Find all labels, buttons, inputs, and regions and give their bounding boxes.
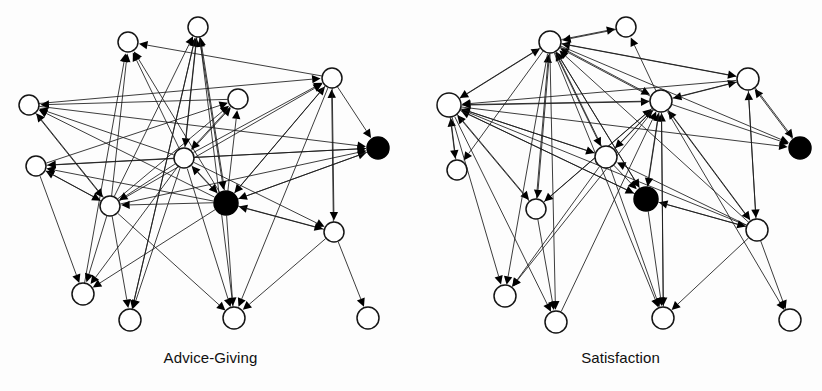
caption-row: Advice-Giving Satisfaction <box>0 343 822 391</box>
graph-node-open[interactable] <box>539 31 561 53</box>
graph-edge <box>35 113 97 191</box>
graph-edge <box>137 60 180 149</box>
graph-edge <box>187 169 228 299</box>
graph-edge <box>571 30 617 39</box>
graph-edge-arrowhead <box>562 34 571 42</box>
graph-edge-arrowhead <box>531 48 540 56</box>
graph-node-open[interactable] <box>616 17 636 37</box>
graph-node-open[interactable] <box>26 156 46 176</box>
graph-node-open[interactable] <box>737 68 759 90</box>
graph-node-open[interactable] <box>545 311 567 333</box>
graph-node-open[interactable] <box>188 17 208 37</box>
graph-edge <box>452 117 499 276</box>
graph-edge <box>678 238 749 304</box>
graph-edge-arrowhead <box>123 299 131 308</box>
graph-edge <box>560 47 643 91</box>
graph-edge-arrowhead <box>450 150 458 159</box>
graph-node-open[interactable] <box>19 95 39 115</box>
graph-edge <box>112 216 127 299</box>
graph-node-filled[interactable] <box>789 137 811 159</box>
graph-edge <box>649 113 659 178</box>
graph-edge <box>199 37 222 181</box>
graph-node-open[interactable] <box>494 285 516 307</box>
graph-node-open[interactable] <box>100 196 120 216</box>
graph-node-open[interactable] <box>595 146 617 168</box>
graph-edge-arrowhead <box>139 41 148 49</box>
graph-node-open[interactable] <box>322 68 342 88</box>
graph-edge-arrowhead <box>534 189 542 198</box>
graph-edge <box>47 112 174 155</box>
graph-edge-arrowhead <box>641 98 650 106</box>
graph-node-open[interactable] <box>357 307 379 329</box>
node-layer <box>437 17 811 333</box>
figure-container: Advice-Giving Satisfaction <box>0 0 822 391</box>
graph-edge-arrowhead <box>218 181 226 190</box>
graph-node-open[interactable] <box>652 307 674 329</box>
graph-node-open[interactable] <box>72 283 94 305</box>
graph-edge <box>134 38 195 301</box>
graph-node-filled[interactable] <box>214 191 238 215</box>
graph-edge <box>562 44 729 75</box>
network-graph-satisfaction <box>411 0 822 345</box>
graph-node-open[interactable] <box>447 160 467 180</box>
graph-edge <box>227 216 233 298</box>
graph-edge <box>748 90 755 209</box>
graph-node-open[interactable] <box>437 93 461 117</box>
graph-edge <box>517 167 599 280</box>
network-graph-advice-giving <box>0 0 411 345</box>
graph-node-open[interactable] <box>324 222 344 242</box>
graph-node-open[interactable] <box>174 148 194 168</box>
graph-edge <box>461 107 779 146</box>
graph-node-open[interactable] <box>650 90 672 112</box>
graph-node-filled[interactable] <box>367 137 389 159</box>
network-panel-advice-giving <box>0 0 411 345</box>
graph-node-open[interactable] <box>119 309 141 331</box>
graph-edge-arrowhead <box>121 201 130 209</box>
graph-edge-arrowhead <box>512 277 520 286</box>
graph-edge <box>667 111 780 302</box>
graph-edge-arrowhead <box>727 71 736 79</box>
graph-edge-arrowhead <box>742 211 750 220</box>
graph-edge <box>648 211 660 297</box>
graph-node-filled[interactable] <box>634 187 658 211</box>
graph-edge <box>194 162 317 223</box>
graph-edge-arrowhead <box>460 90 469 98</box>
graph-edge <box>147 45 321 76</box>
graph-edge <box>634 45 656 91</box>
caption-satisfaction: Satisfaction <box>411 343 822 391</box>
graph-edge <box>471 101 650 104</box>
graph-edge <box>192 165 212 187</box>
graph-node-open[interactable] <box>779 309 801 331</box>
graph-edge-arrowhead <box>645 177 653 186</box>
graph-node-open[interactable] <box>118 32 138 52</box>
graph-edge <box>246 152 367 196</box>
graph-edge <box>118 214 219 305</box>
graph-edge-arrowhead <box>464 151 472 160</box>
graph-edge-arrowhead <box>243 301 252 310</box>
graph-edge-arrowhead <box>544 193 553 202</box>
graph-node-open[interactable] <box>223 307 245 329</box>
graph-edge-arrowhead <box>504 276 512 285</box>
graph-edge <box>554 53 655 299</box>
graph-edge <box>39 79 312 103</box>
graph-edge-arrowhead <box>328 89 336 98</box>
graph-edge <box>337 87 366 131</box>
graph-edge <box>550 53 555 301</box>
graph-edge <box>755 88 788 131</box>
graph-node-open[interactable] <box>228 89 248 109</box>
graph-edge <box>240 86 325 187</box>
graph-edge <box>761 241 783 301</box>
graph-edge <box>130 203 214 205</box>
graph-node-open[interactable] <box>526 199 546 219</box>
graph-node-open[interactable] <box>746 219 768 241</box>
graph-edge <box>338 242 361 299</box>
graph-edge-arrowhead <box>363 129 371 138</box>
graph-edge-arrowhead <box>544 54 552 63</box>
edge-layer <box>35 36 371 310</box>
edge-layer <box>448 26 794 311</box>
graph-edge <box>469 113 746 226</box>
graph-edge <box>673 117 750 220</box>
graph-edge <box>249 239 326 305</box>
caption-advice-giving: Advice-Giving <box>0 343 411 391</box>
graph-edge-arrowhead <box>312 75 321 83</box>
